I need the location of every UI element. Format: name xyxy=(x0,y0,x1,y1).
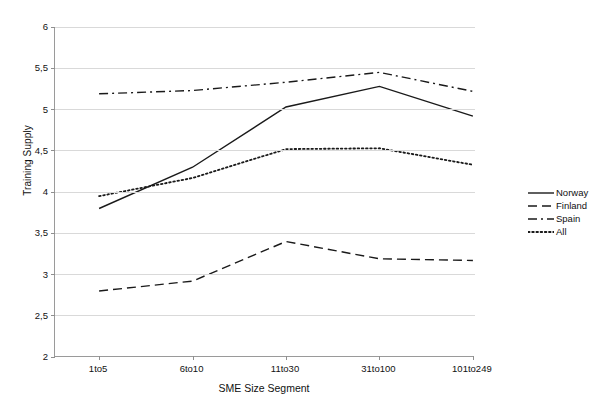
plot-area xyxy=(54,27,474,357)
legend-swatch-all-icon xyxy=(528,227,554,237)
x-axis-tick-label: 101to249 xyxy=(427,364,517,374)
gridline xyxy=(55,274,475,275)
x-axis-tick-label: 31to100 xyxy=(333,364,423,374)
legend-label: Finland xyxy=(554,201,587,211)
legend-swatch-spain-icon xyxy=(528,214,554,224)
series-line-norway xyxy=(99,86,473,208)
x-axis-tick-mark xyxy=(193,356,194,360)
legend-swatch-finland-icon xyxy=(528,201,554,211)
y-axis-tick-label: 5 xyxy=(22,105,48,115)
x-axis-tick-mark xyxy=(473,356,474,360)
x-axis-tick-mark xyxy=(99,356,100,360)
legend-swatch-norway-icon xyxy=(528,188,554,198)
x-axis-tick-mark xyxy=(286,356,287,360)
y-axis-tick-mark xyxy=(51,233,55,234)
legend-item-all[interactable]: All xyxy=(528,225,612,238)
gridline xyxy=(55,233,475,234)
x-axis-tick-label: 11to30 xyxy=(240,364,330,374)
legend-item-spain[interactable]: Spain xyxy=(528,212,612,225)
line-chart: Training Supply 65,554,543,532,52 1to56t… xyxy=(0,0,615,419)
gridline xyxy=(55,150,475,151)
gridline xyxy=(55,27,475,28)
gridline xyxy=(55,192,475,193)
y-axis-tick-label: 3 xyxy=(22,270,48,280)
series-line-spain xyxy=(99,72,473,93)
y-axis-tick-label: 2 xyxy=(22,352,48,362)
y-axis-tick-labels: 65,554,543,532,52 xyxy=(20,0,48,419)
y-axis-tick-mark xyxy=(51,357,55,358)
y-axis-tick-label: 6 xyxy=(22,22,48,32)
y-axis-tick-label: 5,5 xyxy=(22,63,48,73)
y-axis-tick-mark xyxy=(51,315,55,316)
series-line-finland xyxy=(99,242,473,292)
y-axis-tick-label: 4,5 xyxy=(22,146,48,156)
y-axis-tick-mark xyxy=(51,192,55,193)
y-axis-tick-mark xyxy=(51,109,55,110)
y-axis-tick-mark xyxy=(51,68,55,69)
legend-item-finland[interactable]: Finland xyxy=(528,199,612,212)
legend-item-norway[interactable]: Norway xyxy=(528,186,612,199)
y-axis-tick-label: 4 xyxy=(22,187,48,197)
y-axis-tick-mark xyxy=(51,274,55,275)
x-axis-tick-label: 1to5 xyxy=(53,364,143,374)
gridline xyxy=(55,68,475,69)
x-axis-title: SME Size Segment xyxy=(54,382,474,394)
x-axis-tick-mark xyxy=(379,356,380,360)
x-axis-tick-label: 6to10 xyxy=(147,364,237,374)
legend-label: Norway xyxy=(554,188,588,198)
y-axis-tick-label: 3,5 xyxy=(22,228,48,238)
gridline xyxy=(55,315,475,316)
y-axis-tick-label: 2,5 xyxy=(22,311,48,321)
series-line-all xyxy=(99,148,473,196)
y-axis-tick-mark xyxy=(51,27,55,28)
y-axis-tick-mark xyxy=(51,150,55,151)
chart-legend: NorwayFinlandSpainAll xyxy=(528,186,612,238)
gridline xyxy=(55,109,475,110)
legend-label: Spain xyxy=(554,214,580,224)
legend-label: All xyxy=(554,227,567,237)
